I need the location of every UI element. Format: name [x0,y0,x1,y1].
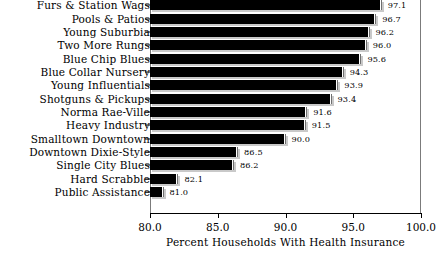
bar [150,120,306,130]
bar-endcap [305,107,307,117]
bar-chart: Furs & Station Wags97.1Pools & Patios96.… [0,0,442,255]
bar-fill [150,107,307,117]
bar-value-label: 91.5 [312,120,331,130]
category-label: Young Suburbia [63,27,150,38]
bar [150,27,370,37]
bar-endcap [236,147,238,157]
table-row: Hard Scrabble82.1 [0,172,442,185]
bar [150,54,361,64]
category-label: Smalltown Downtown [31,133,150,144]
x-axis-tick-label: 100.0 [406,221,436,233]
bar-fill [150,0,382,10]
bar-fill [150,174,178,184]
x-axis-tick [421,213,422,218]
bar-fill [150,120,306,130]
bar-endcap [162,187,164,197]
bar-endcap [284,134,286,144]
bar-fill [150,14,376,24]
bar-endcap [342,67,344,77]
bar-value-label: 96.2 [376,27,395,37]
category-label: Single City Blues [56,160,150,171]
category-label: Furs & Station Wags [37,0,150,11]
bar-value-label: 96.0 [373,40,392,50]
bar [150,187,164,197]
x-axis-tick [286,213,287,218]
bar-endcap [232,160,234,170]
bar-fill [150,67,344,77]
x-axis-tick-label: 80.0 [138,221,161,233]
bar-fill [150,160,234,170]
bar [150,134,286,144]
bar-value-label: 95.6 [367,54,386,64]
bar-value-label: 86.2 [240,160,259,170]
bar-endcap [176,174,178,184]
bar [150,0,382,10]
bar [150,107,307,117]
table-row: Young Suburbia96.2 [0,25,442,38]
bar [150,14,376,24]
bar-value-label: 81.0 [170,187,189,197]
bar-endcap [336,80,338,90]
table-row: Norma Rae-Ville91.6 [0,105,442,118]
bar-endcap [304,120,306,130]
bar-fill [150,27,370,37]
category-label: Hard Scrabble [70,173,150,184]
bar-value-label: 90.0 [292,134,311,144]
table-row: Smalltown Downtown90.0 [0,132,442,145]
bar-value-label: 94.3 [350,67,369,77]
bar [150,94,332,104]
table-row: Furs & Station Wags97.1 [0,0,442,12]
bar [150,67,344,77]
table-row: Two More Rungs96.0 [0,39,442,52]
bar-fill [150,134,286,144]
bar-fill [150,80,338,90]
table-row: Shotguns & Pickups93.4 [0,92,442,105]
category-label: Pools & Patios [72,13,150,24]
x-axis-title: Percent Households With Health Insurance [150,236,421,248]
bar [150,40,367,50]
category-label: Heavy Industry [66,120,150,131]
x-axis-tick [150,213,151,218]
category-label: Blue Collar Nursery [41,67,150,78]
bar-value-label: 91.6 [313,107,332,117]
bar-endcap [330,94,332,104]
bar-endcap [359,54,361,64]
bar-endcap [365,40,367,50]
bar [150,174,178,184]
bar-value-label: 97.1 [388,0,407,10]
bar-fill [150,94,332,104]
table-row: Blue Chip Blues95.6 [0,52,442,65]
bar [150,147,238,157]
x-axis-tick-label: 90.0 [274,221,297,233]
table-row: Public Assistance81.0 [0,185,442,198]
bar-endcap [380,0,382,10]
table-row: Pools & Patios96.7 [0,12,442,25]
category-label: Blue Chip Blues [63,53,150,64]
category-label: Public Assistance [55,187,150,198]
table-row: Downtown Dixie-Style86.5 [0,145,442,158]
category-label: Norma Rae-Ville [61,107,150,118]
bar-value-label: 96.7 [382,14,401,24]
x-axis-tick [218,213,219,218]
bar-endcap [368,27,370,37]
x-axis-tick [353,213,354,218]
table-row: Heavy Industry91.5 [0,119,442,132]
bar-value-label: 93.4 [338,94,357,104]
table-row: Blue Collar Nursery94.3 [0,65,442,78]
category-label: Two More Rungs [57,40,150,51]
bar-endcap [374,14,376,24]
bar [150,160,234,170]
x-axis-tick-label: 85.0 [206,221,229,233]
bar-value-label: 93.9 [344,80,363,90]
category-label: Downtown Dixie-Style [29,147,150,158]
bar-value-label: 82.1 [184,174,203,184]
bar-fill [150,54,361,64]
x-axis-tick-label: 95.0 [342,221,365,233]
bar-fill [150,147,238,157]
category-label: Young Influentials [51,80,150,91]
table-row: Young Influentials93.9 [0,79,442,92]
bar-fill [150,187,164,197]
bar [150,80,338,90]
table-row: Single City Blues86.2 [0,159,442,172]
category-label: Shotguns & Pickups [40,93,150,104]
